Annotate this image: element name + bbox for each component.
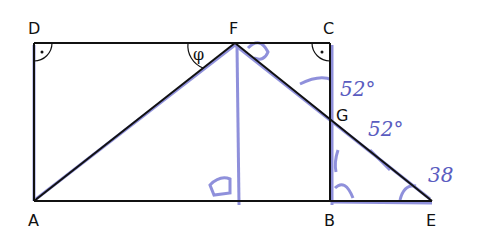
- segment-af: [34, 43, 235, 201]
- handwritten-angle-mid: 52°: [368, 117, 403, 141]
- handwritten-angle-top: 52°: [340, 77, 375, 101]
- label-d: D: [28, 19, 40, 38]
- label-a: A: [28, 211, 39, 230]
- label-g: G: [336, 106, 348, 125]
- label-c: C: [323, 19, 334, 38]
- label-b: B: [324, 211, 335, 230]
- geometry-diagram: D F C G A B E φ 52° 52° 38: [0, 0, 487, 247]
- right-angle-dot-d: [41, 51, 44, 54]
- label-f: F: [229, 19, 238, 38]
- label-e: E: [426, 211, 436, 230]
- handwritten-angle-e: 38: [428, 163, 453, 187]
- angle-phi-label: φ: [193, 45, 204, 64]
- right-angle-dot-c: [321, 51, 324, 54]
